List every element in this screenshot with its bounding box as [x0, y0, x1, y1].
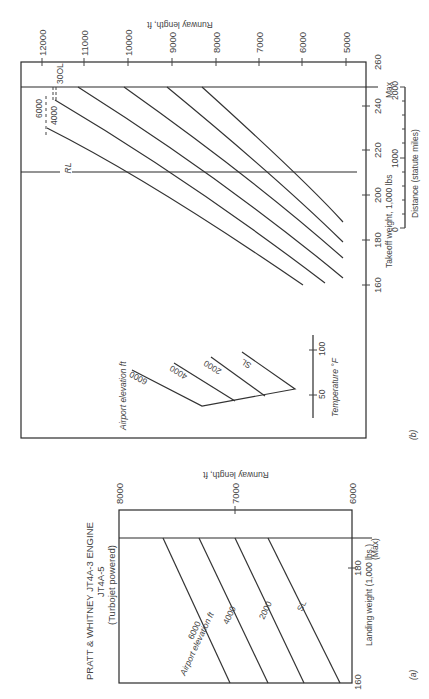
takeoff-curves — [47, 87, 343, 285]
svg-text:11000: 11000 — [79, 30, 90, 56]
svg-text:2000: 2000 — [390, 81, 400, 100]
temperature-inset-labels: 50 100 Temperature °F Airport elevation … — [118, 342, 340, 431]
svg-text:50: 50 — [317, 389, 327, 399]
curve-3000 — [78, 87, 343, 278]
landing-weight-tick-labels: 180 160 — [352, 560, 363, 690]
svg-text:200: 200 — [372, 187, 383, 203]
top-elevation-labels: 6000 4000 30OL — [34, 63, 65, 125]
svg-text:8000: 8000 — [211, 32, 222, 53]
distance-label: Distance (statute miles) — [410, 129, 420, 218]
svg-text:7000: 7000 — [230, 483, 241, 504]
svg-text:30OL: 30OL — [55, 63, 65, 84]
svg-text:12000: 12000 — [37, 30, 48, 56]
svg-text:180: 180 — [352, 560, 363, 576]
svg-text:6000: 6000 — [34, 99, 44, 118]
takeoff-runway-tick-labels: 12000 11000 10000 9000 8000 7000 6000 50… — [37, 30, 352, 56]
svg-text:Airport elevation ft: Airport elevation ft — [177, 610, 216, 678]
svg-text:PRATT & WHITNEY JT4A-3 ENGINE: PRATT & WHITNEY JT4A-3 ENGINE — [84, 522, 95, 680]
landing-xlabel: Landing weight (1,000 lbs.) — [364, 544, 374, 646]
svg-text:(Turbojet powered): (Turbojet powered) — [106, 545, 117, 625]
temperature-inset — [132, 335, 317, 418]
line-6000 — [163, 538, 230, 683]
svg-text:160: 160 — [372, 277, 383, 293]
svg-text:8000: 8000 — [114, 483, 125, 504]
takeoff-ylabel: Runway length, ft — [147, 20, 213, 30]
curve-4000 — [55, 100, 325, 283]
svg-text:260: 260 — [372, 54, 383, 70]
panel-label-a: (a) — [408, 669, 418, 680]
svg-text:220: 220 — [372, 142, 383, 158]
svg-text:2000: 2000 — [257, 599, 274, 621]
takeoff-chart: 12000 11000 10000 9000 8000 7000 6000 50… — [21, 20, 420, 440]
takeoff-frame — [21, 62, 366, 438]
svg-text:4000: 4000 — [49, 106, 59, 125]
svg-text:2000: 2000 — [201, 358, 223, 377]
svg-text:6000: 6000 — [127, 369, 149, 387]
chart-canvas: 12000 11000 10000 9000 8000 7000 6000 50… — [0, 0, 429, 699]
takeoff-weight-tick-labels: 260 240 220 200 180 160 — [372, 54, 383, 293]
svg-text:7000: 7000 — [254, 32, 265, 53]
svg-text:1000: 1000 — [390, 149, 400, 168]
panel-label-b: (b) — [408, 429, 418, 440]
svg-text:5000: 5000 — [341, 32, 352, 53]
svg-text:160: 160 — [352, 674, 363, 690]
takeoff-xlabel: Takeoff weight, 1,000 lbs — [384, 175, 394, 268]
landing-runway-tick-labels: 8000 7000 6000 — [114, 483, 358, 504]
landing-chart: 8000 7000 6000 Runway length, ft 180 160… — [84, 470, 418, 690]
svg-text:240: 240 — [372, 98, 383, 114]
landing-title-block: PRATT & WHITNEY JT4A-3 ENGINE JT4A-5 (Tu… — [84, 522, 117, 680]
svg-text:JT4A-5: JT4A-5 — [95, 566, 106, 597]
distance-axis — [400, 87, 405, 228]
landing-frame — [119, 510, 352, 683]
svg-text:Temperature °F: Temperature °F — [330, 357, 340, 417]
svg-text:100: 100 — [317, 342, 327, 356]
landing-ylabel: Runway length, ft — [203, 470, 269, 480]
svg-text:SL: SL — [295, 599, 309, 613]
svg-text:6000: 6000 — [347, 483, 358, 504]
svg-text:9000: 9000 — [167, 32, 178, 53]
svg-text:180: 180 — [372, 232, 383, 248]
rl-label: RL — [63, 162, 73, 173]
svg-text:0: 0 — [390, 227, 400, 232]
svg-text:10000: 10000 — [123, 30, 134, 56]
curve-6 — [202, 87, 343, 222]
svg-text:Airport elevation ft: Airport elevation ft — [118, 361, 128, 431]
svg-text:6000: 6000 — [297, 32, 308, 53]
